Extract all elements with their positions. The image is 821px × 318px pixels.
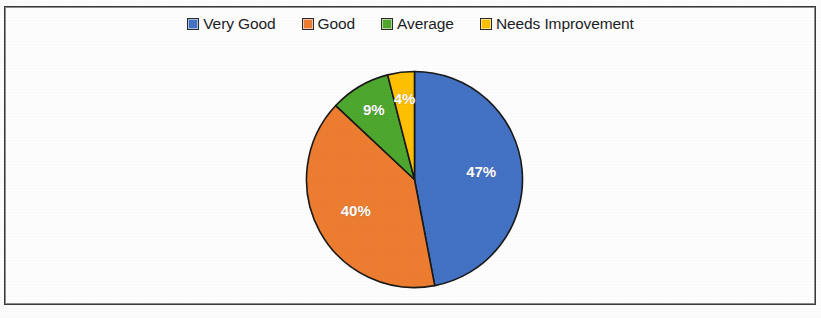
legend-label-very-good: Very Good — [203, 16, 275, 32]
legend-label-good: Good — [318, 16, 356, 32]
pie-label-good: 40% — [341, 202, 371, 219]
legend-item-average[interactable]: Average — [381, 16, 454, 32]
legend-label-average: Average — [397, 16, 454, 32]
pie-chart-figure: Very Good Good Average Needs Improvement… — [0, 0, 821, 318]
legend-swatch-needs-improvement-icon — [480, 18, 492, 30]
pie-label-very-good: 47% — [466, 163, 496, 180]
legend-item-good[interactable]: Good — [302, 16, 356, 32]
pie-plot-area: 47% 40% 9% 4% — [304, 69, 525, 290]
pie-label-average: 9% — [363, 101, 385, 118]
pie-label-needs-improvement: 4% — [394, 90, 416, 107]
legend-item-very-good[interactable]: Very Good — [187, 16, 275, 32]
legend-label-needs-improvement: Needs Improvement — [496, 16, 634, 32]
chart-legend: Very Good Good Average Needs Improvement — [0, 16, 821, 32]
legend-swatch-good-icon — [302, 18, 314, 30]
legend-swatch-very-good-icon — [187, 18, 199, 30]
legend-swatch-average-icon — [381, 18, 393, 30]
pie-svg: 47% 40% 9% 4% — [304, 69, 525, 290]
legend-item-needs-improvement[interactable]: Needs Improvement — [480, 16, 634, 32]
